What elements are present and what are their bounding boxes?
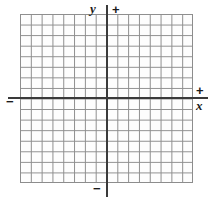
x-axis-line [8,97,208,99]
coordinate-grid-figure: y x + + − − [0,0,215,206]
x-axis-negative-sign: − [6,95,14,108]
y-axis-negative-sign: − [93,182,101,195]
y-axis-label: y [90,2,96,15]
x-axis-label: x [196,99,203,112]
y-axis-line [106,5,108,197]
x-axis-positive-sign: + [196,84,204,97]
y-axis-positive-sign: + [112,3,120,16]
